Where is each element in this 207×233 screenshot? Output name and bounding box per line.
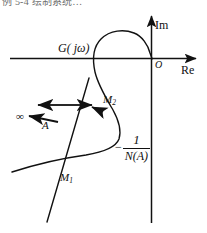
fraction-numerator: 1: [130, 133, 143, 148]
m1-subscript: 1: [69, 176, 73, 185]
m1-base: M: [60, 171, 69, 183]
imaginary-axis-label: Im: [155, 19, 168, 31]
negative-inverse-n-label: − 1 N(A): [115, 133, 150, 162]
real-axis-label: Re: [181, 64, 194, 76]
fraction: 1 N(A): [123, 133, 150, 162]
g-jw-label: G( jω): [58, 42, 89, 54]
minus-sign: −: [115, 141, 122, 154]
origin-label: O: [155, 60, 162, 70]
amplitude-label: A: [42, 120, 49, 131]
intersection-label-m2: M2: [103, 94, 116, 107]
m2-incoming-arrow: [92, 107, 103, 112]
negative-inverse-n-locus: [47, 78, 89, 222]
nyquist-plot-canvas: [0, 0, 207, 233]
m2-subscript: 2: [112, 98, 116, 107]
nyquist-diagram-figure: 例 5-4 绘制系统… G(: [0, 0, 207, 233]
infinity-label: ∞: [16, 111, 24, 122]
fraction-denominator: N(A): [123, 149, 150, 163]
intersection-label-m1: M1: [60, 172, 73, 185]
m2-base: M: [103, 93, 112, 105]
